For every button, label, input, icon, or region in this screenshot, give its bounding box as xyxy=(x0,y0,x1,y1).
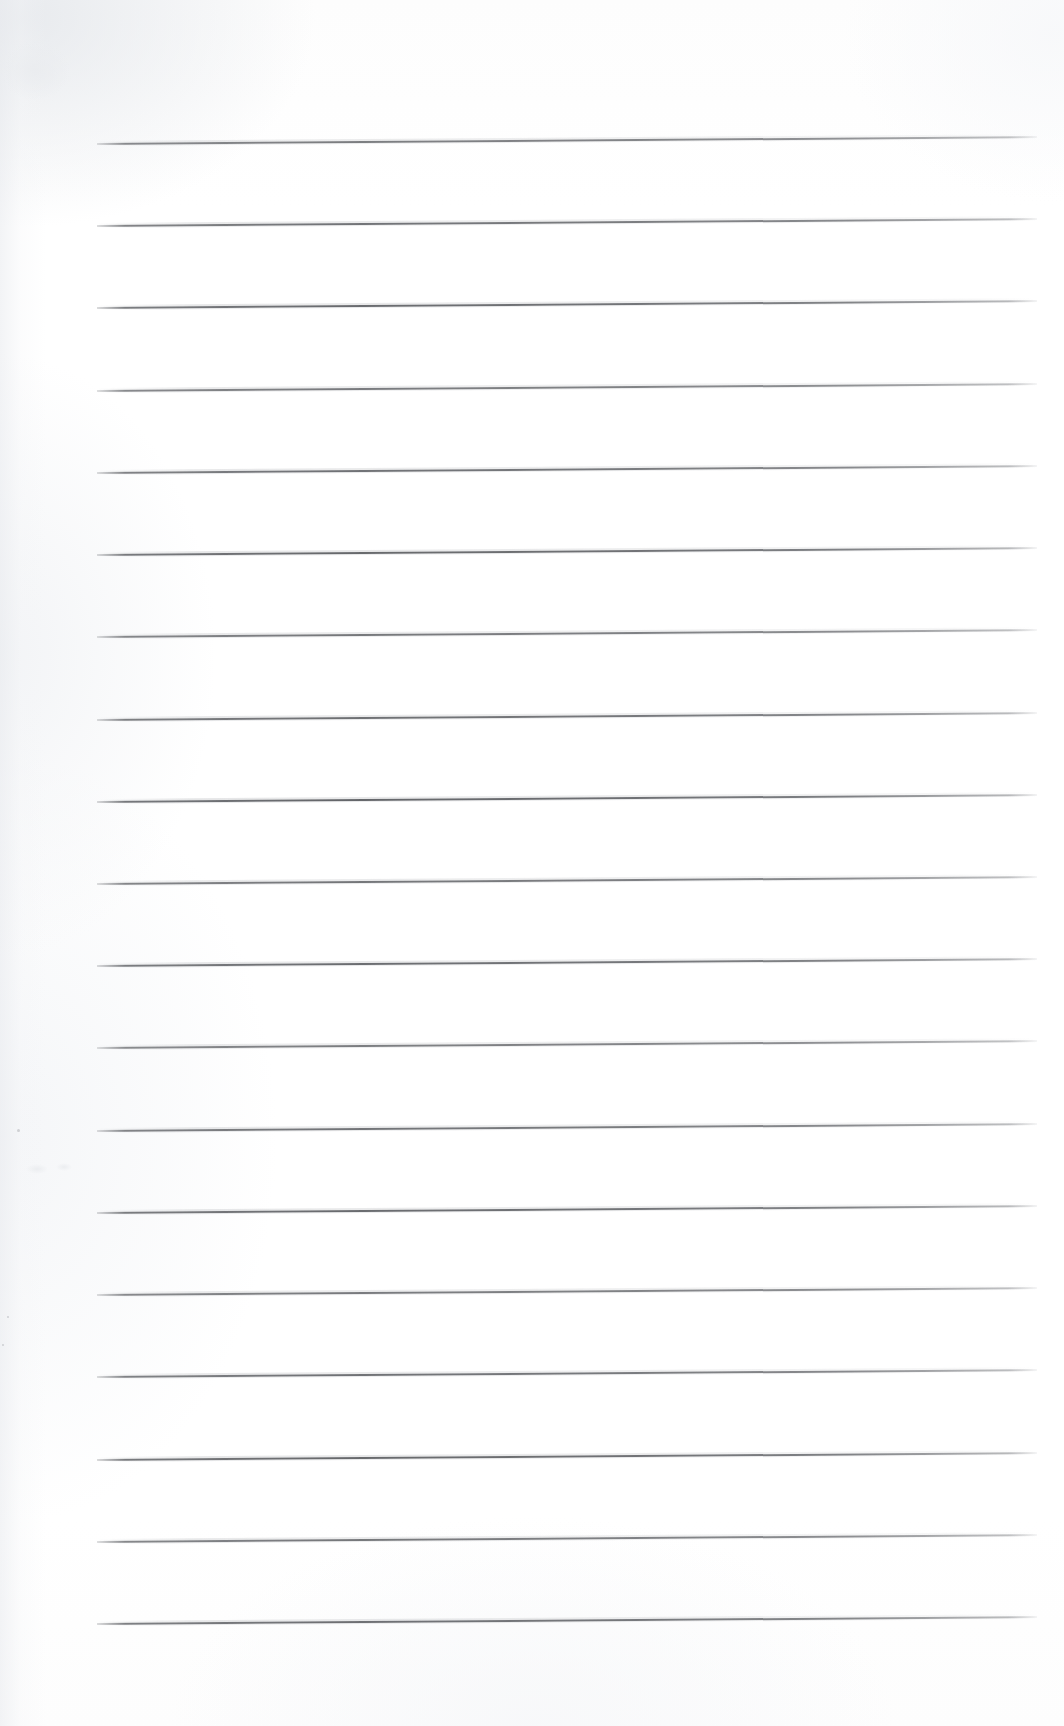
scanned-page xyxy=(0,0,1064,1726)
scan-artifacts-layer xyxy=(0,0,1064,1726)
scan-speck xyxy=(2,1344,4,1346)
scan-speck xyxy=(7,1316,9,1318)
scan-speck xyxy=(17,1129,20,1132)
scan-smudge xyxy=(0,40,70,100)
scan-smudge xyxy=(26,1164,48,1174)
scan-smudge xyxy=(56,1163,72,1171)
